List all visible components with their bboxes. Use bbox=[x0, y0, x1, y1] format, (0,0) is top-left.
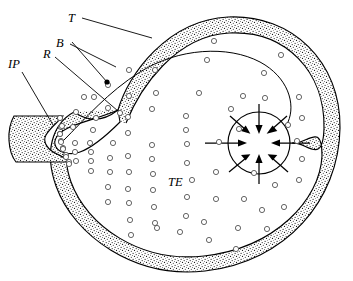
vesicle-dot bbox=[204, 57, 209, 62]
vesicle-dot bbox=[251, 170, 256, 175]
vesicle-dot bbox=[213, 196, 218, 201]
vesicle-dot-stream bbox=[63, 154, 68, 159]
figure-root: TBRIPTE bbox=[0, 0, 353, 281]
vesicle-dot bbox=[107, 155, 112, 160]
vesicle-dot bbox=[216, 139, 221, 144]
vesicle-dot bbox=[125, 153, 130, 158]
vesicle-dot-stream bbox=[59, 123, 64, 128]
vesicle-dot bbox=[152, 67, 157, 72]
vesicle-dot bbox=[261, 70, 266, 75]
vesicle-dot bbox=[296, 94, 301, 99]
vesicle-dot bbox=[72, 149, 77, 154]
vesicle-dot bbox=[126, 200, 131, 205]
vesicle-dot bbox=[126, 67, 131, 72]
vesicle-dot bbox=[105, 199, 110, 204]
vesicle-dot bbox=[117, 110, 122, 115]
vesicle-dot bbox=[88, 168, 93, 173]
vesicle-dot bbox=[149, 156, 154, 161]
vesicle-dot bbox=[110, 140, 115, 145]
vesicle-dot bbox=[211, 38, 216, 43]
vesicle-dot bbox=[91, 94, 96, 99]
vesicle-dot bbox=[183, 127, 188, 132]
vesicle-dot bbox=[296, 177, 301, 182]
vesicle-dot bbox=[184, 160, 189, 165]
vesicle-dot-stream bbox=[57, 131, 62, 136]
seed-cross-section-diagram: TBRIPTE bbox=[0, 0, 353, 281]
vesicle-dot bbox=[299, 156, 304, 161]
vesicle-dot bbox=[189, 177, 194, 182]
vesicle-dot bbox=[233, 246, 238, 251]
vesicle-dot bbox=[206, 237, 211, 242]
vesicle-dot bbox=[125, 186, 130, 191]
vesicle-dot bbox=[285, 122, 290, 127]
vesicle-dot bbox=[105, 184, 110, 189]
label-r: R bbox=[42, 47, 51, 61]
vesicle-dot bbox=[150, 171, 155, 176]
vesicle-dot bbox=[90, 127, 95, 132]
vesicle-dot bbox=[107, 169, 112, 174]
vesicle-dot bbox=[81, 94, 86, 99]
vesicle-dot bbox=[87, 140, 92, 145]
vesicle-dot bbox=[73, 109, 78, 114]
vesicle-dot bbox=[151, 204, 156, 209]
vesicle-dot bbox=[126, 169, 131, 174]
leader-end-dot bbox=[104, 79, 109, 84]
vesicle-dot bbox=[213, 169, 218, 174]
vesicle-dot bbox=[228, 106, 233, 111]
vesicle-dot bbox=[70, 124, 75, 129]
vesicle-dot bbox=[236, 126, 241, 131]
vesicle-dot bbox=[149, 142, 154, 147]
label-ip: IP bbox=[7, 57, 20, 71]
vesicle-dot bbox=[88, 158, 93, 163]
vesicle-dot bbox=[184, 194, 189, 199]
vesicle-dot bbox=[240, 93, 245, 98]
vesicle-dot bbox=[278, 52, 283, 57]
vesicle-dot bbox=[88, 149, 93, 154]
vesicle-dot bbox=[150, 187, 155, 192]
vesicle-dot bbox=[262, 95, 267, 100]
vesicle-dot bbox=[184, 141, 189, 146]
vesicle-dot bbox=[183, 113, 188, 118]
vesicle-dot bbox=[73, 158, 78, 163]
vesicle-dot bbox=[125, 114, 130, 119]
label-te: TE bbox=[168, 175, 183, 189]
vesicle-dot bbox=[241, 196, 246, 201]
vesicle-dot bbox=[153, 90, 158, 95]
vesicle-dot bbox=[125, 130, 130, 135]
vesicle-dot bbox=[183, 213, 188, 218]
vesicle-dot bbox=[128, 232, 133, 237]
label-t: T bbox=[68, 11, 76, 25]
vesicle-dot bbox=[127, 217, 132, 222]
vesicle-dot bbox=[126, 93, 131, 98]
vesicle-dot bbox=[93, 115, 98, 120]
vesicle-dot bbox=[272, 182, 277, 187]
vesicle-dot bbox=[152, 220, 157, 225]
vesicle-dot bbox=[105, 105, 110, 110]
vesicle-dot bbox=[235, 225, 240, 230]
vesicle-dot bbox=[294, 138, 299, 143]
vesicle-dot bbox=[196, 90, 201, 95]
vesicle-dot-stream bbox=[57, 115, 62, 120]
vesicle-dot bbox=[177, 229, 182, 234]
leader-t bbox=[82, 18, 152, 38]
vesicle-dot bbox=[281, 204, 286, 209]
vesicle-dot-stream bbox=[66, 161, 71, 166]
vesicle-dot bbox=[264, 226, 269, 231]
vesicle-dot-stream bbox=[60, 146, 65, 151]
vesicle-dot bbox=[299, 115, 304, 120]
vesicle-dot bbox=[149, 106, 154, 111]
label-b: B bbox=[56, 36, 64, 50]
vesicle-dot bbox=[154, 225, 159, 230]
vesicle-dot bbox=[72, 140, 77, 145]
vesicle-dot bbox=[201, 219, 206, 224]
vesicle-dot-stream bbox=[58, 139, 63, 144]
vesicle-dot bbox=[259, 207, 264, 212]
